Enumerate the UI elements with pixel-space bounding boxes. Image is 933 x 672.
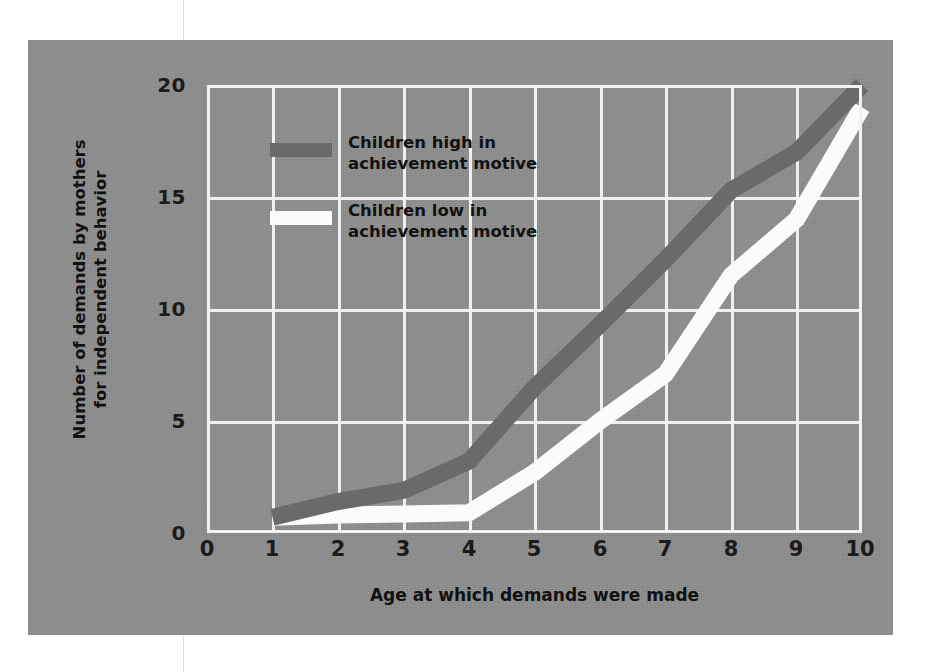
x-tick-1: 1	[265, 537, 280, 561]
y-tick-5: 5	[172, 409, 186, 433]
legend-label-low: Children low in achievement motive	[348, 200, 537, 242]
chart-figure: 20 15 10 5 0 Number of demands by mother…	[0, 0, 933, 672]
x-tick-5: 5	[527, 537, 542, 561]
x-tick-7: 7	[658, 537, 673, 561]
x-axis-ticks: 0 1 2 3 4 5 6 7 8 9 10	[207, 537, 862, 567]
legend-label-high-line2: achievement motive	[348, 153, 537, 174]
x-tick-3: 3	[396, 537, 411, 561]
y-axis-label-line1: Number of demands by mothers	[69, 139, 90, 439]
y-tick-15: 15	[157, 185, 186, 209]
y-tick-20: 20	[157, 73, 186, 97]
x-axis-label: Age at which demands were made	[207, 585, 862, 605]
x-tick-10: 10	[845, 537, 874, 561]
x-tick-9: 9	[789, 537, 804, 561]
chart-panel: 20 15 10 5 0 Number of demands by mother…	[28, 40, 893, 635]
x-tick-2: 2	[331, 537, 346, 561]
y-axis-label-line2: for independent behavior	[90, 139, 111, 439]
legend-swatch-high	[270, 143, 332, 157]
x-tick-8: 8	[724, 537, 739, 561]
legend-label-high-line1: Children high in	[348, 132, 537, 153]
x-tick-4: 4	[462, 537, 477, 561]
x-tick-0: 0	[200, 537, 215, 561]
x-tick-6: 6	[593, 537, 608, 561]
legend-label-low-line2: achievement motive	[348, 221, 537, 242]
y-axis-label: Number of demands by mothers for indepen…	[69, 139, 112, 439]
legend-swatch-low	[270, 211, 332, 225]
y-tick-10: 10	[157, 297, 186, 321]
y-axis-ticks: 20 15 10 5 0	[124, 85, 186, 533]
legend-label-high: Children high in achievement motive	[348, 132, 537, 174]
y-tick-0: 0	[172, 521, 186, 545]
legend-label-low-line1: Children low in	[348, 200, 537, 221]
